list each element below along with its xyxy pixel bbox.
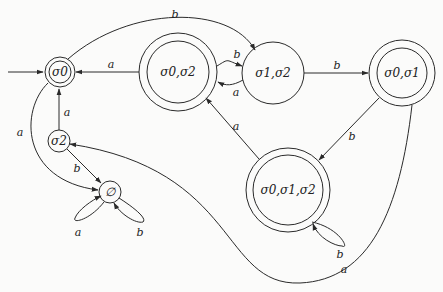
edge-s0-s12 [68,17,255,59]
edge-s2-empty [67,149,101,183]
edge-s012-s02-label: a [233,120,240,133]
edge-s02-s12-label: b [233,48,240,61]
edge-s012-self-label: b [336,248,343,261]
state-s02[interactable]: σ0,σ2 [139,33,217,111]
automaton-diagram: σ0 σ0,σ2 σ1,σ2 σ0,σ1 σ0,σ1,σ2 σ2 ∅ b a b [0,0,443,292]
edge-s01-s012 [319,98,379,160]
edge-s2-s0-label: a [64,106,71,119]
edge-s12-s02 [218,80,243,85]
state-s12-label: σ1,σ2 [255,66,290,80]
edge-empty-self-a-label: a [75,226,82,239]
state-s2[interactable]: σ2 [48,130,70,152]
edge-s12-s02-label: a [233,86,240,99]
edge-s02-s0-label: a [108,58,115,71]
state-s02-label: σ0,σ2 [160,65,195,79]
state-s0[interactable]: σ0 [45,57,75,87]
edge-empty-self-b-label: b [136,226,143,239]
edge-s02-s12 [217,61,242,66]
edge-s12-s01-label: b [333,59,340,72]
state-s01-label: σ0,σ1 [384,66,419,80]
state-s0-label: σ0 [52,65,68,79]
automaton-canvas: σ0 σ0,σ2 σ1,σ2 σ0,σ1 σ0,σ1,σ2 σ2 ∅ b a b [0,0,443,292]
edge-s01-s012-label: b [348,130,355,143]
state-empty[interactable]: ∅ [99,181,121,203]
state-s2-label: σ2 [51,134,67,148]
state-s012[interactable]: σ0,σ1,σ2 [246,148,330,232]
edge-empty-self-a [75,196,104,221]
edge-s2-empty-label: b [73,162,80,175]
edge-s0-s12-label: b [171,8,178,21]
state-s01[interactable]: σ0,σ1 [369,40,435,106]
edge-s01-s2-label: a [341,263,348,276]
edge-s0-empty-label: a [17,126,24,139]
state-s012-label: σ0,σ1,σ2 [260,183,315,197]
edge-s012-self [312,222,345,246]
state-empty-label: ∅ [105,185,116,199]
state-s12[interactable]: σ1,σ2 [242,42,304,104]
edge-empty-self-b [114,198,144,222]
